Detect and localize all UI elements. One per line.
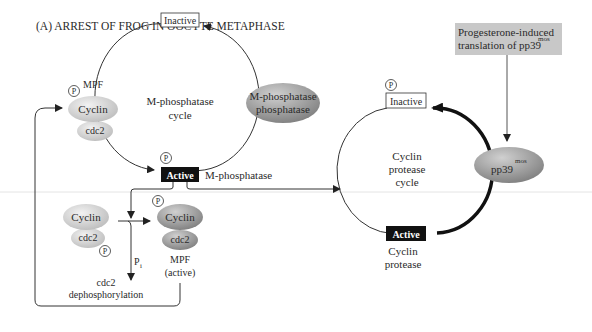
active-label: Active bbox=[166, 170, 194, 181]
m-phosphatase-cycle: M-phosphatase cycle Inactive P Active M-… bbox=[95, 13, 272, 182]
svg-text:phosphatase: phosphatase bbox=[256, 103, 310, 115]
cyclin-protease-label-1: Cyclin bbox=[388, 245, 418, 257]
svg-text:P: P bbox=[103, 247, 108, 256]
progesterone-box: Progesterone-induced translation of pp39… bbox=[455, 23, 562, 55]
progesterone-superscript: mos bbox=[538, 35, 550, 43]
dephosphorylation-label-1: cdc2 bbox=[97, 277, 116, 288]
cyclin-protease-cycle: Cyclin protease cycle P Inactive Active … bbox=[337, 80, 492, 271]
dephosphorylation-label-2: dephosphorylation bbox=[69, 289, 143, 300]
cyclin-protease-cycle-label-2: protease bbox=[389, 163, 426, 175]
pp39-label: pp39 bbox=[491, 163, 514, 175]
cdc2-label: cdc2 bbox=[79, 232, 98, 243]
cdc2-label: cdc2 bbox=[171, 234, 190, 245]
pp39-superscript: mos bbox=[515, 157, 527, 165]
m-phosphatase-label: M-phosphatase bbox=[205, 169, 272, 181]
inactive-label: Inactive bbox=[390, 96, 423, 107]
svg-text:P: P bbox=[156, 197, 161, 206]
mpf-complex-inactive: Cyclin cdc2 P bbox=[63, 204, 111, 257]
svg-text:P: P bbox=[72, 87, 77, 96]
mpf-label: MPF bbox=[83, 79, 103, 90]
progesterone-label-2: translation of pp39 bbox=[458, 39, 542, 51]
cyclin-protease-cycle-label-3: cycle bbox=[395, 176, 418, 188]
mpf-active-label-1: MPF bbox=[170, 254, 190, 265]
cyclin-label: Cyclin bbox=[165, 211, 195, 223]
cdc2-label: cdc2 bbox=[86, 125, 105, 136]
active-label: Active bbox=[392, 229, 420, 240]
active-to-cyclin-protease-arrow bbox=[187, 182, 340, 189]
figure-title: (A) ARREST OF FROG IN OOCYTE METAPHASE bbox=[36, 20, 285, 33]
cyclin-protease-label-2: protease bbox=[385, 258, 422, 270]
m-phosphatase-phosphatase: M-phosphatase phosphatase bbox=[246, 83, 320, 123]
cyclin-label: Cyclin bbox=[71, 211, 101, 223]
dephosphorylation-arrow bbox=[128, 221, 131, 280]
frog-oocyte-metaphase-diagram: (A) ARREST OF FROG IN OOCYTE METAPHASE M… bbox=[0, 0, 592, 332]
mpf-complex-active: P Cyclin cdc2 MPF (active) bbox=[153, 196, 204, 280]
svg-text:P: P bbox=[389, 81, 394, 90]
mpf-complex-top: P MPF Cyclin cdc2 bbox=[68, 79, 118, 141]
cyclin-label: Cyclin bbox=[78, 103, 108, 115]
inactive-label: Inactive bbox=[164, 15, 197, 26]
cyclin-protease-cycle-label-1: Cyclin bbox=[392, 150, 422, 162]
svg-text:M-phosphatase: M-phosphatase bbox=[249, 90, 316, 102]
m-phosphatase-cycle-label-2: cycle bbox=[168, 109, 191, 121]
svg-text:P: P bbox=[164, 154, 169, 163]
mpf-active-label-2: (active) bbox=[165, 267, 196, 279]
pi-subscript: i bbox=[140, 262, 142, 270]
m-phosphatase-cycle-label-1: M-phosphatase bbox=[146, 95, 213, 107]
pp39-mos: pp39 mos bbox=[474, 147, 544, 183]
